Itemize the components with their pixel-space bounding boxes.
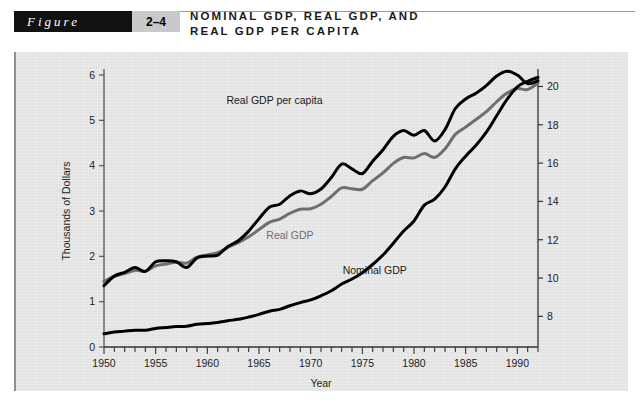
x-axis-tick-label: 1970 [299,357,323,369]
y-axis-left-tick-label: 2 [89,250,95,262]
y-axis-right-tick-label: 20 [547,80,559,92]
y-axis-right-tick-label: 14 [547,195,559,207]
figure-title-line-2: REAL GDP PER CAPITA [190,24,620,39]
figure-number-box: 2–4 [132,11,180,32]
y-axis-left-tick-label: 1 [89,295,95,307]
y-axis-right-tick-label: 18 [547,119,559,131]
series-label-real-gdp: Real GDP [266,229,313,241]
x-axis-tick-label: 1960 [196,357,220,369]
figure-title: NOMINAL GDP, REAL GDP, AND REAL GDP PER … [190,9,620,39]
y-axis-right-tick-label: 16 [547,157,559,169]
y-axis-left-tick-label: 0 [89,341,95,353]
x-axis-tick-label: 1980 [402,357,426,369]
y-axis-right-tick-label: 12 [547,234,559,246]
figure-number-label: 2–4 [146,15,166,29]
series-label-real-gdp-per-capita: Real GDP per capita [226,94,322,106]
line-chart: 0123456810121416182019501955196019651970… [14,52,628,391]
plot-area: 0123456810121416182019501955196019651970… [14,52,628,391]
figure-screenshot: Figure 2–4 NOMINAL GDP, REAL GDP, AND RE… [0,0,643,403]
x-axis-tick-label: 1950 [92,357,116,369]
x-axis-title: Year [310,377,332,389]
figure-tab: Figure 2–4 [14,11,180,32]
x-axis-tick-label: 1955 [144,357,168,369]
figure-title-line-1: NOMINAL GDP, REAL GDP, AND [190,9,620,24]
y-axis-title: Thousands of Dollars [60,161,72,260]
series-line-real-gdp [104,83,538,281]
x-axis-tick-label: 1985 [454,357,478,369]
figure-header: Figure 2–4 NOMINAL GDP, REAL GDP, AND RE… [0,0,643,48]
y-axis-left-tick-label: 5 [89,114,95,126]
y-axis-right-tick-label: 10 [547,272,559,284]
y-axis-right-tick-label: 8 [547,310,553,322]
x-axis-tick-label: 1975 [351,357,375,369]
y-axis-left-tick-label: 6 [89,69,95,81]
x-axis-tick-label: 1990 [506,357,530,369]
figure-word-label: Figure [14,14,80,30]
x-axis-tick-label: 1965 [247,357,271,369]
y-axis-left-tick-label: 3 [89,205,95,217]
y-axis-left-tick-label: 4 [89,159,95,171]
series-label-nominal-gdp: Nominal GDP [343,264,407,276]
